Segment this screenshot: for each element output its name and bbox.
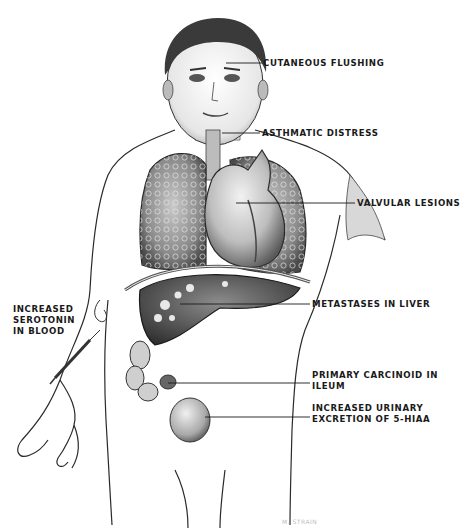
label-increased-serotonin: INCREASED SEROTONIN IN BLOOD <box>13 304 75 337</box>
label-primary-carcinoid: PRIMARY CARCINOID IN ILEUM <box>312 370 438 392</box>
label-urinary-excretion: INCREASED URINARY EXCRETION OF 5-HIAA <box>312 403 430 425</box>
liver <box>140 275 300 345</box>
label-line: IN BLOOD <box>13 326 75 337</box>
artist-signature: M. STRAIN <box>282 518 317 525</box>
head <box>163 18 268 145</box>
label-line: INCREASED <box>13 304 75 315</box>
label-line: PRIMARY CARCINOID IN <box>312 370 438 381</box>
bladder <box>170 398 210 442</box>
label-line: SEROTONIN <box>13 315 75 326</box>
label-asthmatic-distress: ASTHMATIC DISTRESS <box>262 128 378 139</box>
label-metastases-liver: METASTASES IN LIVER <box>312 299 430 310</box>
label-cutaneous-flushing: CUTANEOUS FLUSHING <box>263 58 384 69</box>
anatomical-illustration <box>0 0 463 530</box>
label-line: ILEUM <box>312 381 438 392</box>
label-line: EXCRETION OF 5-HIAA <box>312 414 430 425</box>
intestines <box>126 341 176 401</box>
label-valvular-lesions: VALVULAR LESIONS <box>357 198 460 209</box>
label-line: INCREASED URINARY <box>312 403 430 414</box>
